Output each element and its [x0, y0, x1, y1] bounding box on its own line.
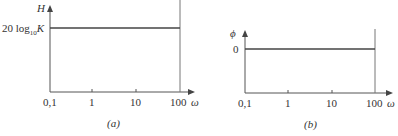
panel-b: ϕ 0 0,1 1 10 100 ω (b) — [230, 27, 395, 131]
xtick-0-b: 0,1 — [238, 97, 252, 109]
xtick-2-b: 10 — [326, 97, 338, 109]
xlabel-b: ω — [387, 97, 395, 109]
ytick-b: 0 — [233, 43, 239, 55]
xtick-1-a: 1 — [89, 96, 95, 108]
caption-b: (b) — [304, 118, 317, 131]
xtick-2-a: 10 — [130, 96, 142, 108]
ylabel-a: H — [36, 2, 46, 14]
caption-a: (a) — [107, 117, 120, 130]
xtick-3-b: 100 — [366, 97, 383, 109]
xtick-1-b: 1 — [285, 97, 291, 109]
ylabel-b: ϕ — [230, 27, 236, 39]
bode-plots: H 20 log10K 0,1 1 10 100 ω (a) ϕ 0 0,1 1… — [0, 0, 398, 136]
xlabel-a: ω — [191, 96, 199, 108]
xtick-0-a: 0,1 — [43, 96, 57, 108]
xtick-3-a: 100 — [170, 96, 187, 108]
panel-a: H 20 log10K 0,1 1 10 100 ω (a) — [2, 0, 199, 130]
ytick-a: 20 log10K — [2, 22, 45, 37]
